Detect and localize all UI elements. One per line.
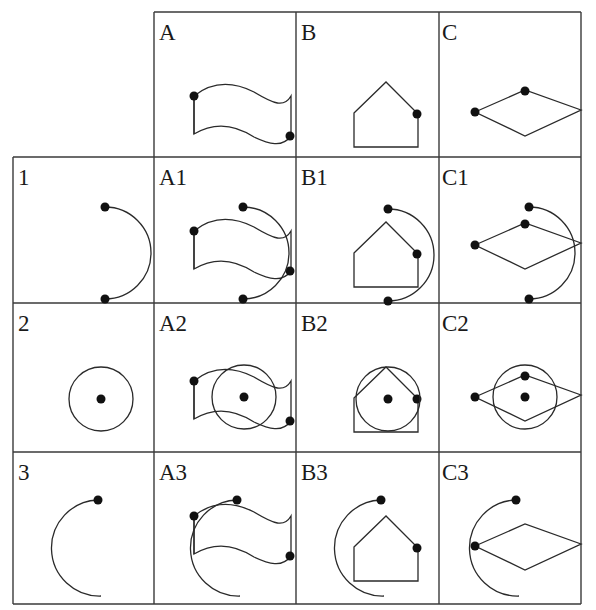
rhombus-arc-combination xyxy=(471,220,582,270)
grid xyxy=(13,12,581,604)
house-arc-combination xyxy=(354,222,422,287)
rhombus-shape xyxy=(471,87,582,137)
cell-label: 2 xyxy=(18,311,30,336)
cell-B3: B3 xyxy=(301,460,422,596)
circle-dot-shape xyxy=(69,367,133,431)
cell-A2: A2 xyxy=(159,311,295,429)
cell-A3: A3 xyxy=(159,460,295,596)
cell-label: 3 xyxy=(18,460,30,485)
house-shape xyxy=(354,82,422,147)
cell-label: A3 xyxy=(159,460,187,485)
cell-C3: C3 xyxy=(442,460,581,596)
cell-label: C2 xyxy=(442,311,469,336)
cell-3: 3 xyxy=(18,460,103,596)
cell-label: B2 xyxy=(301,311,328,336)
cell-C1: C1 xyxy=(442,165,581,304)
flag-arc-combination xyxy=(190,219,295,278)
cell-label: A1 xyxy=(159,165,187,190)
cell-label: C xyxy=(442,20,457,45)
cell-2: 2 xyxy=(18,311,133,431)
cell-label: A xyxy=(159,20,176,45)
cell-A1: A1 xyxy=(159,165,295,304)
cell-B2: B2 xyxy=(301,311,422,432)
cell-A: A xyxy=(159,20,295,144)
cell-1: 1 xyxy=(18,165,151,304)
cell-B1: B1 xyxy=(301,165,434,306)
cell-label: B xyxy=(301,20,316,45)
cell-B: B xyxy=(301,20,422,147)
cell-label: C3 xyxy=(442,460,469,485)
cell-label: B1 xyxy=(301,165,328,190)
semicircle-arc-shape xyxy=(101,203,152,304)
shape-matrix-diagram: A B C 1 A1 B1 C1 2 A2 xyxy=(0,0,596,610)
cell-label: A2 xyxy=(159,311,187,336)
house-arc-combination xyxy=(354,516,422,581)
cell-C: C xyxy=(442,20,581,136)
cell-C2: C2 xyxy=(442,311,581,429)
rhombus-arc-combination xyxy=(471,524,582,570)
wavy-flag-shape xyxy=(190,84,295,143)
cell-label: B3 xyxy=(301,460,328,485)
left-arc-shape xyxy=(51,496,102,597)
cell-label: C1 xyxy=(442,165,469,190)
cell-label: 1 xyxy=(18,165,30,190)
